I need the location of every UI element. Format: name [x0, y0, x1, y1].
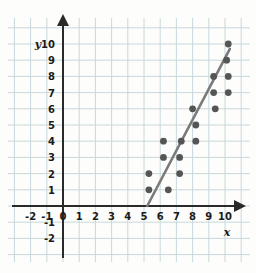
y-tick-label: 5 — [48, 120, 55, 131]
y-tick-label: 4 — [48, 136, 55, 147]
x-tick-label: 2 — [92, 211, 99, 222]
x-tick-label: 5 — [141, 211, 148, 222]
y-tick-label: -2 — [44, 233, 55, 244]
x-tick-label: 3 — [108, 211, 115, 222]
x-tick-label: 1 — [76, 211, 83, 222]
y-tick-label: 9 — [48, 55, 55, 66]
y-tick-label: 6 — [48, 104, 55, 115]
data-point — [223, 57, 230, 64]
data-point — [225, 41, 232, 48]
data-point — [192, 122, 199, 129]
x-tick-label: -2 — [25, 211, 36, 222]
x-tick-label: 8 — [189, 211, 196, 222]
x-tick-label: 6 — [157, 211, 164, 222]
y-tick-label: 1 — [48, 185, 55, 196]
data-point — [225, 73, 232, 80]
y-tick-label: 2 — [48, 169, 55, 180]
data-point — [178, 138, 185, 145]
y-tick-label: -1 — [44, 217, 55, 228]
data-point — [160, 154, 167, 161]
data-point — [225, 89, 232, 96]
data-point — [165, 186, 172, 193]
data-point — [212, 105, 219, 112]
x-tick-label: 7 — [173, 211, 180, 222]
x-tick-label: 4 — [124, 211, 131, 222]
data-point — [160, 138, 167, 145]
y-tick-label: 3 — [48, 152, 55, 163]
data-point — [192, 138, 199, 145]
data-point — [176, 170, 183, 177]
y-tick-label: 8 — [48, 71, 55, 82]
y-tick-label: 10 — [41, 39, 55, 50]
scatter-plot-figure: -2-1012345678910-2-112345678910yx — [0, 0, 256, 273]
plot-canvas: -2-1012345678910-2-112345678910yx — [0, 0, 256, 273]
data-point — [145, 170, 152, 177]
x-tick-label: 0 — [60, 211, 67, 222]
data-point — [145, 186, 152, 193]
y-tick-label: 7 — [48, 88, 55, 99]
x-tick-label: 10 — [218, 211, 232, 222]
data-point — [189, 105, 196, 112]
x-axis-label: x — [223, 226, 231, 239]
data-point — [210, 73, 217, 80]
data-point — [176, 154, 183, 161]
x-tick-label: 9 — [205, 211, 212, 222]
data-point — [210, 89, 217, 96]
